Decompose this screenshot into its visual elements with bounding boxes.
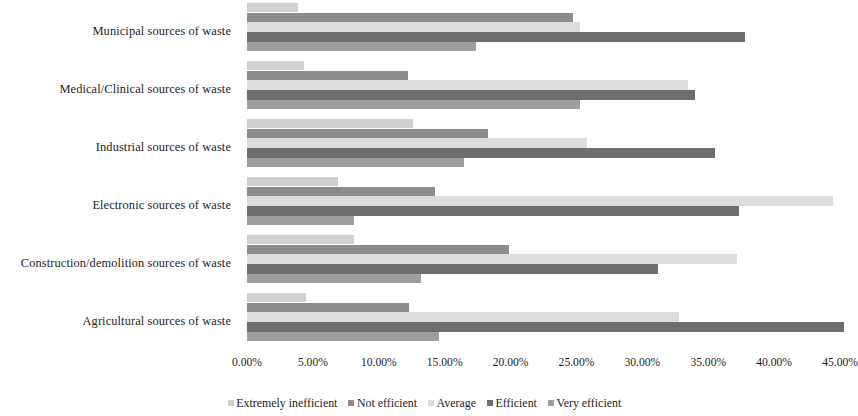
legend-item[interactable]: Efficient [487,396,537,410]
legend-label: Not efficient [357,396,417,410]
bar-row [247,263,844,273]
bar-row [247,321,844,331]
x-tick-label: 25.00% [559,356,595,369]
bar-row [247,234,844,244]
bar-row [247,253,844,263]
x-tick-label: 10.00% [361,356,397,369]
legend-swatch-icon [428,400,434,406]
bar-row [247,157,844,167]
legend-label: Extremely inefficient [236,396,337,410]
bar [247,274,421,283]
chart-legend: Extremely inefficientNot efficientAverag… [0,394,849,412]
x-tick-label: 30.00% [624,356,660,369]
bar-group [247,176,844,234]
bar-row [247,137,844,147]
x-tick-label: 5.00% [298,356,328,369]
legend-swatch-icon [487,400,493,406]
legend-item[interactable]: Average [428,396,476,410]
bar-row [247,176,844,186]
category-label: Industrial sources of waste [0,140,231,154]
legend-item[interactable]: Not efficient [348,396,417,410]
bar-row [247,302,844,312]
bar-group [247,60,844,118]
category-label: Electronic sources of waste [0,198,231,212]
bar-row [247,215,844,225]
bar-row [247,244,844,254]
x-tick-label: 15.00% [427,356,463,369]
bar [247,216,354,225]
bar-group [247,118,844,176]
x-tick-label: 45.00% [822,356,858,369]
x-tick-label: 20.00% [493,356,529,369]
x-tick-label: 0.00% [232,356,262,369]
x-axis: 0.00%5.00%10.00%15.00%20.00%25.00%30.00%… [247,352,844,372]
bar-row [247,79,844,89]
plot-area [247,2,844,350]
bar-row [247,41,844,51]
bar-row [247,21,844,31]
bar-row [247,70,844,80]
bar-group [247,234,844,292]
bar-row [247,99,844,109]
bar-row [247,195,844,205]
category-label: Construction/demolition sources of waste [0,256,231,270]
category-label: Agricultural sources of waste [0,314,231,328]
legend-swatch-icon [548,400,554,406]
bar-row [247,186,844,196]
bar-row [247,31,844,41]
legend-swatch-icon [348,400,354,406]
bar [247,42,476,51]
bar-row [247,12,844,22]
bar [247,100,580,109]
legend-label: Average [437,396,476,410]
bar-row [247,311,844,321]
bar-row [247,331,844,341]
bar-row [247,292,844,302]
bar-group [247,292,844,350]
bar-row [247,273,844,283]
bar-row [247,205,844,215]
legend-label: Very efficient [556,396,621,410]
legend-item[interactable]: Very efficient [548,396,621,410]
bar [247,332,439,341]
bar [247,158,464,167]
bar-group [247,2,844,60]
legend-item[interactable]: Extremely inefficient [228,396,338,410]
legend-label: Efficient [496,396,537,410]
bar-row [247,2,844,12]
bar-row [247,128,844,138]
bar-row [247,147,844,157]
bar-row [247,60,844,70]
x-tick-label: 35.00% [690,356,726,369]
x-tick-label: 40.00% [756,356,792,369]
category-label: Municipal sources of waste [0,24,231,38]
bar-row [247,89,844,99]
category-axis-labels: Municipal sources of wasteMedical/Clinic… [0,2,240,350]
category-label: Medical/Clinical sources of waste [0,82,231,96]
legend-swatch-icon [228,400,234,406]
bar-row [247,118,844,128]
